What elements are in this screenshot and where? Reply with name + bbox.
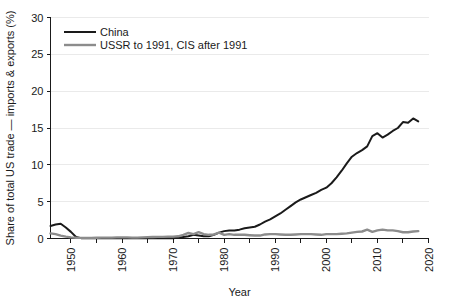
legend: ChinaUSSR to 1991, CIS after 1991 [64,26,247,51]
y-tick-label-15: 15 [31,122,43,134]
y-axis-ticks: 051015202530 [31,12,50,245]
x-axis-title: Year [228,286,251,298]
x-tick-label-1960: 1960 [116,248,128,272]
x-tick-label-1980: 1980 [218,248,230,272]
y-tick-label-25: 25 [31,48,43,60]
legend-label-china: China [100,26,130,38]
data-series [51,118,419,238]
x-tick-label-2000: 2000 [320,248,332,272]
y-axis-title: Share of total US trade — imports & expo… [4,11,16,246]
x-tick-label-1990: 1990 [269,248,281,272]
x-tick-label-1970: 1970 [167,248,179,272]
y-tick-label-20: 20 [31,85,43,97]
x-tick-label-1950: 1950 [65,248,77,272]
x-tick-label-2010: 2010 [371,248,383,272]
y-tick-label-30: 30 [31,12,43,24]
y-tick-label-5: 5 [37,196,43,208]
y-tick-label-0: 0 [37,233,43,245]
x-axis-ticks: 19501960197019801990200020102020 [65,239,435,272]
line-chart: 051015202530 195019601970198019902000201… [0,0,452,305]
y-tick-label-10: 10 [31,159,43,171]
legend-label-ussr-cis: USSR to 1991, CIS after 1991 [100,39,247,51]
series-line-china [51,118,419,238]
x-tick-label-2020: 2020 [423,248,435,272]
chart-canvas: 051015202530 195019601970198019902000201… [0,0,452,305]
